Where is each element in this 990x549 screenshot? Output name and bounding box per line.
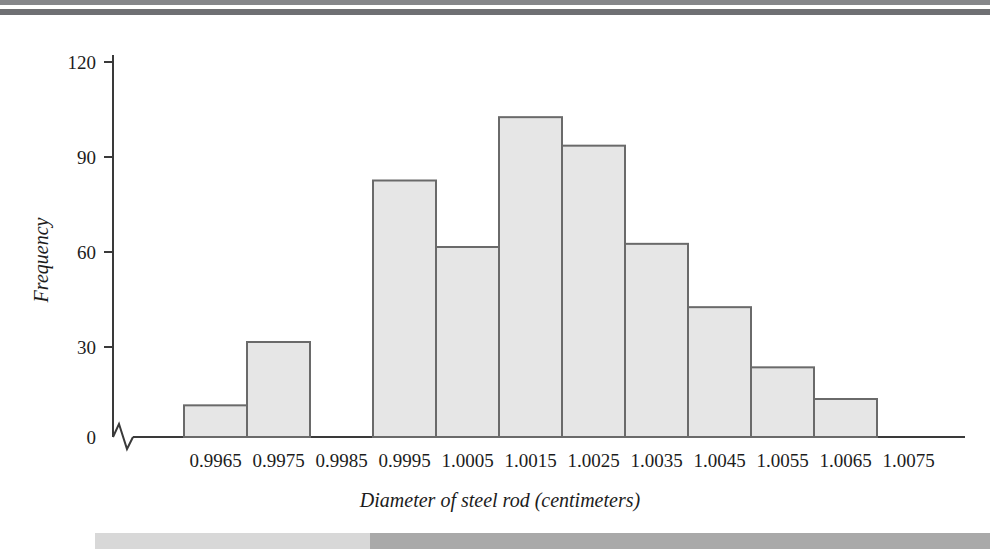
y-axis-ticks xyxy=(104,62,113,347)
bottom-band-dark xyxy=(370,533,990,549)
bar-5 xyxy=(499,117,562,437)
x-tick-label-7: 1.0035 xyxy=(630,450,682,471)
x-axis-tick-labels: 0.9965 0.9975 0.9985 0.9995 1.0005 1.001… xyxy=(189,450,934,471)
bar-8 xyxy=(688,307,751,437)
x-tick-label-9: 1.0055 xyxy=(756,450,808,471)
bar-6 xyxy=(562,146,625,437)
bar-4 xyxy=(436,247,499,437)
x-tick-label-1: 0.9975 xyxy=(252,450,304,471)
bottom-band-light xyxy=(95,533,370,549)
x-tick-label-0: 0.9965 xyxy=(189,450,241,471)
x-tick-label-6: 1.0025 xyxy=(567,450,619,471)
x-tick-label-4: 1.0005 xyxy=(441,450,493,471)
x-tick-label-3: 0.9995 xyxy=(378,450,430,471)
x-tick-label-5: 1.0015 xyxy=(504,450,556,471)
figure-page: 120 90 60 30 0 Frequency xyxy=(0,0,990,549)
x-tick-label-2: 0.9985 xyxy=(315,450,367,471)
y-tick-label-0: 0 xyxy=(87,427,97,448)
bar-1 xyxy=(247,342,310,437)
x-tick-label-11: 1.0075 xyxy=(882,450,934,471)
y-tick-label-30: 30 xyxy=(77,337,96,358)
bar-0 xyxy=(184,405,247,437)
x-axis-title: Diameter of steel rod (centimeters) xyxy=(359,489,641,512)
y-tick-label-90: 90 xyxy=(77,147,96,168)
y-tick-label-120: 120 xyxy=(68,52,97,73)
bar-3 xyxy=(373,181,436,438)
y-tick-label-60: 60 xyxy=(77,242,96,263)
histogram-chart: 120 90 60 30 0 Frequency xyxy=(0,15,990,515)
x-tick-label-8: 1.0045 xyxy=(693,450,745,471)
top-rule-upper xyxy=(0,0,990,5)
histogram-svg: 120 90 60 30 0 Frequency xyxy=(0,15,990,515)
y-axis-title: Frequency xyxy=(30,217,53,303)
bar-9 xyxy=(751,367,814,437)
bars-group xyxy=(184,117,877,437)
axis-break-icon xyxy=(113,424,133,449)
x-tick-label-10: 1.0065 xyxy=(819,450,871,471)
bar-10 xyxy=(814,399,877,437)
bar-7 xyxy=(625,244,688,437)
